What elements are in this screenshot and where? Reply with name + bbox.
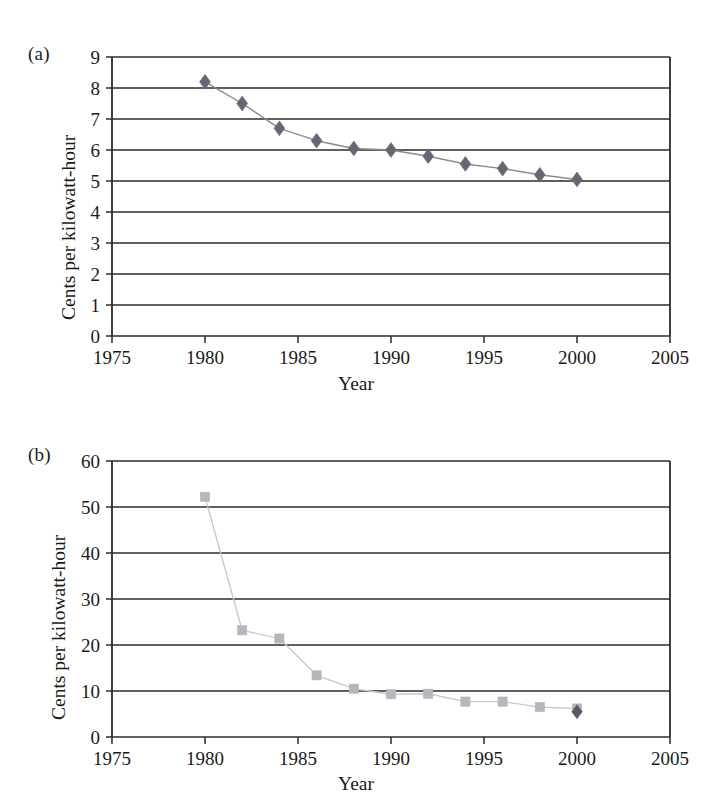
y-tick-label: 30: [81, 589, 100, 610]
x-tick-label: 2000: [558, 347, 596, 368]
data-point-marker: [535, 703, 544, 712]
y-tick-label: 8: [91, 78, 101, 99]
chart-panel-a: (a) Cents per kilowatt-hour Year 0123456…: [0, 0, 717, 404]
chart-plot-a: 01234567891975198019851990199520002005: [0, 0, 717, 404]
data-point-marker: [534, 167, 545, 182]
x-tick-label: 1990: [372, 748, 410, 769]
x-tick-label: 1980: [186, 748, 224, 769]
y-tick-label: 5: [91, 171, 101, 192]
series-line: [205, 82, 577, 180]
series-line: [205, 497, 577, 709]
y-ticks-group: 0102030405060: [81, 451, 112, 748]
x-tick-label: 2000: [558, 748, 596, 769]
chart-plot-b: 0102030405060197519801985199019952000200…: [0, 404, 717, 808]
x-tick-label: 2005: [651, 748, 689, 769]
data-point-marker: [348, 141, 359, 156]
series-group: [200, 492, 582, 718]
y-tick-label: 60: [81, 451, 100, 472]
x-tick-label: 1975: [93, 748, 131, 769]
data-point-marker: [498, 697, 507, 706]
y-tick-label: 0: [91, 326, 101, 347]
gridlines-group: [112, 57, 670, 336]
x-ticks-group: 1975198019851990199520002005: [93, 336, 689, 368]
y-tick-label: 20: [81, 635, 100, 656]
data-point-marker: [572, 172, 583, 187]
figure-root: (a) Cents per kilowatt-hour Year 0123456…: [0, 0, 717, 808]
y-tick-label: 40: [81, 543, 100, 564]
y-tick-label: 7: [91, 109, 101, 130]
data-point-marker: [312, 671, 321, 680]
x-tick-label: 1990: [372, 347, 410, 368]
y-tick-label: 6: [91, 140, 101, 161]
data-point-marker: [311, 133, 322, 148]
data-point-marker: [424, 689, 433, 698]
y-tick-label: 10: [81, 681, 100, 702]
x-tick-label: 1980: [186, 347, 224, 368]
data-point-marker: [386, 690, 395, 699]
y-ticks-group: 0123456789: [91, 47, 113, 347]
y-tick-label: 3: [91, 233, 101, 254]
data-point-marker: [200, 74, 211, 89]
y-tick-label: 0: [91, 727, 101, 748]
data-point-marker: [200, 492, 209, 501]
x-tick-label: 1985: [279, 748, 317, 769]
y-tick-label: 9: [91, 47, 101, 68]
data-point-marker: [237, 96, 248, 111]
data-point-marker: [274, 121, 285, 136]
y-tick-label: 50: [81, 497, 100, 518]
data-point-marker: [460, 157, 471, 172]
y-tick-label: 1: [91, 295, 101, 316]
x-tick-label: 1985: [279, 347, 317, 368]
x-tick-label: 1995: [465, 748, 503, 769]
chart-panel-b: (b) Cents per kilowatt-hour Year 0102030…: [0, 404, 717, 808]
x-tick-label: 1995: [465, 347, 503, 368]
x-ticks-group: 1975198019851990199520002005: [93, 737, 689, 769]
x-tick-label: 2005: [651, 347, 689, 368]
data-point-marker: [349, 684, 358, 693]
y-tick-label: 4: [91, 202, 101, 223]
series-group: [200, 74, 583, 186]
y-tick-label: 2: [91, 264, 101, 285]
data-point-marker: [423, 149, 434, 164]
data-point-marker: [275, 634, 284, 643]
data-point-marker: [238, 626, 247, 635]
x-tick-label: 1975: [93, 347, 131, 368]
data-point-marker: [461, 697, 470, 706]
data-point-marker: [497, 161, 508, 176]
data-point-marker: [386, 143, 397, 158]
